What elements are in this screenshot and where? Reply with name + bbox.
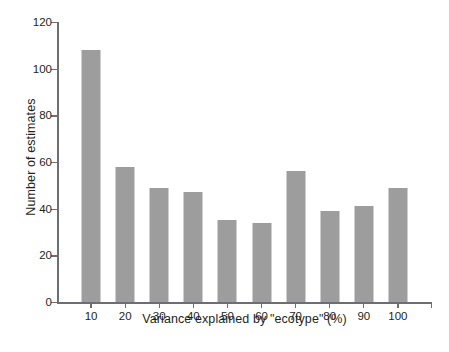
y-axis-tick-label: 20 <box>39 249 52 261</box>
x-axis-tick-mark <box>295 303 296 308</box>
bar <box>286 171 305 302</box>
y-axis-tick-label: 40 <box>39 203 52 215</box>
x-axis-tick-mark <box>125 303 126 308</box>
bar <box>218 220 237 302</box>
x-axis-title: Variance explained by "ecotype" (%) <box>57 312 432 326</box>
x-axis-end-tick <box>431 303 432 308</box>
bar <box>388 188 407 302</box>
y-axis-title: Number of estimates <box>22 2 40 312</box>
x-axis-tick-mark <box>329 303 330 308</box>
plot-area: 020406080100120 102030405060708090100 <box>57 22 432 302</box>
x-axis-tick-mark <box>397 303 398 308</box>
x-axis-tick-mark <box>261 303 262 308</box>
y-axis-tick-label: 100 <box>33 63 52 75</box>
y-axis-tick-label: 0 <box>46 296 52 308</box>
y-axis-tick-label: 80 <box>39 109 52 121</box>
bar <box>150 188 169 302</box>
y-axis-line <box>57 22 59 303</box>
bar <box>82 50 101 302</box>
x-axis-line <box>57 302 432 304</box>
bar <box>184 192 203 302</box>
bar <box>116 167 135 302</box>
x-axis-tick-mark <box>363 303 364 308</box>
bar <box>354 206 373 302</box>
x-axis-tick-mark <box>193 303 194 308</box>
bar-chart-figure: Number of estimates 020406080100120 1020… <box>0 0 449 352</box>
bar <box>252 223 271 302</box>
x-axis-tick-mark <box>90 303 91 308</box>
x-axis-tick-mark <box>227 303 228 308</box>
y-axis-tick-label: 120 <box>33 16 52 28</box>
x-axis-tick-mark <box>159 303 160 308</box>
bar <box>320 211 339 302</box>
y-axis-tick-label: 60 <box>39 156 52 168</box>
